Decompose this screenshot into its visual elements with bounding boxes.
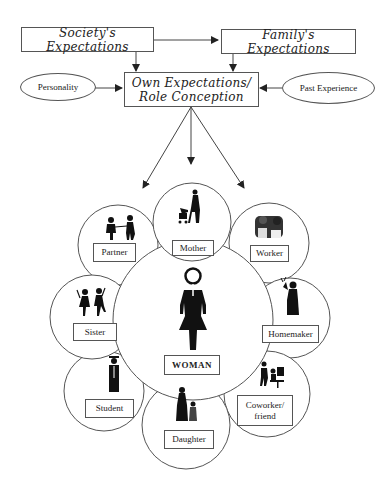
role-label-partner: Partner — [93, 243, 136, 262]
role-label-worker: Worker — [250, 245, 289, 262]
role-label-text: Sister — [85, 327, 106, 338]
role-label-homemaker: Homemaker — [262, 325, 319, 343]
arrow-own-to-worker — [191, 107, 244, 188]
role-label-student: Student — [85, 399, 134, 418]
woman-label-box: WOMAN — [164, 355, 220, 375]
family-expectations-box: Family's Expectations — [221, 29, 356, 54]
role-label-daughter: Daughter — [164, 430, 214, 449]
role-label-text: Partner — [102, 247, 128, 258]
role-label-text: Coworker/ — [246, 400, 285, 411]
own-expectations-label-line1: Own Expectations/ — [132, 76, 252, 90]
role-label-coworker: Coworker/ friend — [237, 395, 293, 426]
role-label-text: Mother — [180, 243, 207, 254]
personality-label: Personality — [38, 82, 79, 92]
arrow-own-to-partner — [143, 107, 191, 188]
past-experience-ellipse: Past Experience — [282, 72, 375, 104]
society-expectations-box: Society's Expectations — [21, 27, 154, 52]
role-label-sister: Sister — [73, 323, 117, 341]
role-label-text: Worker — [256, 248, 283, 259]
woman-label: WOMAN — [172, 360, 212, 371]
workers-group-icon — [255, 216, 283, 238]
own-expectations-box: Own Expectations/ Role Conception — [124, 72, 259, 107]
own-expectations-label-line2: Role Conception — [139, 90, 244, 104]
role-diagram: Society's Expectations Family's Expectat… — [0, 0, 392, 490]
past-experience-label: Past Experience — [300, 83, 358, 93]
society-expectations-label: Society's Expectations — [22, 26, 153, 54]
role-label-text: Daughter — [172, 434, 206, 445]
role-label-text: Homemaker — [268, 329, 312, 340]
role-label-text: friend — [254, 411, 276, 422]
family-expectations-label: Family's Expectations — [222, 28, 355, 56]
personality-ellipse: Personality — [20, 73, 96, 101]
role-label-mother: Mother — [172, 240, 214, 256]
role-label-text: Student — [96, 403, 124, 414]
